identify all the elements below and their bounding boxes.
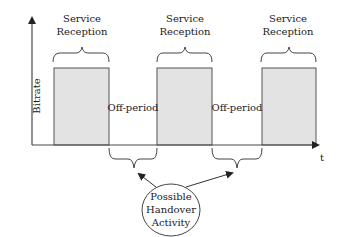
service-reception-brace-3: [261, 47, 316, 62]
service-reception-brace-2: [157, 47, 212, 62]
handover-label-line2: Handover: [146, 204, 196, 215]
burst-bar-1: [54, 68, 109, 145]
off-period-label-1: Off-period: [107, 102, 159, 113]
service-reception-label-3-line1: Service: [269, 13, 307, 24]
burst-bar-2: [157, 68, 212, 145]
off-period-brace-2: [212, 148, 262, 168]
burst-transmission-diagram: Bitrate t Service Reception Service Rece…: [0, 0, 339, 237]
handover-label-line3: Activity: [151, 217, 191, 228]
service-reception-label-2-line1: Service: [166, 13, 204, 24]
service-reception-label-2-line2: Reception: [159, 26, 211, 37]
handover-label-line1: Possible: [150, 191, 191, 202]
y-axis-label: Bitrate: [31, 78, 42, 113]
off-period-label-2: Off-period: [211, 102, 263, 113]
burst-bar-3: [262, 68, 316, 145]
handover-arrow-right: [186, 173, 232, 187]
service-reception-label-3-line2: Reception: [262, 26, 314, 37]
service-reception-brace-1: [53, 47, 109, 62]
service-reception-label-1-line2: Reception: [56, 26, 108, 37]
off-period-brace-1: [109, 148, 157, 168]
x-axis-label: t: [320, 152, 324, 163]
service-reception-label-1-line1: Service: [63, 13, 101, 24]
handover-arrow-left: [139, 174, 156, 187]
